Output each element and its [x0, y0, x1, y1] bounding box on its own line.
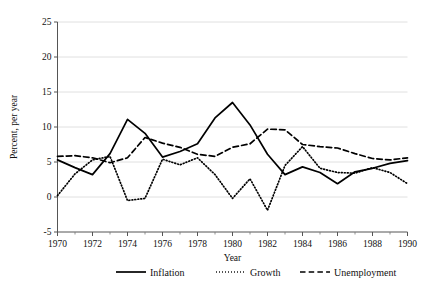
x-tick-label: 1970: [48, 239, 67, 249]
line-chart: -505101520251970197219741976197819801982…: [0, 0, 438, 295]
x-tick-label: 1978: [188, 239, 207, 249]
y-tick-label: 0: [47, 192, 52, 202]
y-tick-label: -5: [44, 227, 52, 237]
x-axis-ticks: 1970197219741976197819801982198419861988…: [48, 232, 417, 249]
x-axis-title: Year: [224, 253, 242, 263]
x-tick-label: 1980: [223, 239, 242, 249]
x-tick-label: 1986: [328, 239, 347, 249]
x-tick-label: 1974: [118, 239, 137, 249]
x-tick-label: 1972: [83, 239, 102, 249]
y-tick-label: 5: [47, 157, 52, 167]
chart-legend: InflationGrowthUnemployment: [116, 267, 396, 278]
x-tick-label: 1984: [293, 239, 312, 249]
y-axis-ticks: -50510152025: [42, 17, 58, 237]
y-tick-label: 25: [42, 17, 52, 27]
x-tick-label: 1988: [363, 239, 382, 249]
x-tick-label: 1990: [398, 239, 417, 249]
y-axis-title: Percent, per year: [9, 94, 19, 159]
y-tick-label: 20: [42, 52, 52, 62]
x-tick-label: 1982: [258, 239, 277, 249]
x-tick-label: 1976: [153, 239, 172, 249]
legend-label-growth: Growth: [250, 267, 281, 278]
y-tick-label: 15: [42, 87, 52, 97]
legend-label-unemployment: Unemployment: [334, 267, 396, 278]
legend-label-inflation: Inflation: [150, 267, 184, 278]
y-tick-label: 10: [42, 122, 52, 132]
chart-figure: -505101520251970197219741976197819801982…: [0, 0, 438, 295]
